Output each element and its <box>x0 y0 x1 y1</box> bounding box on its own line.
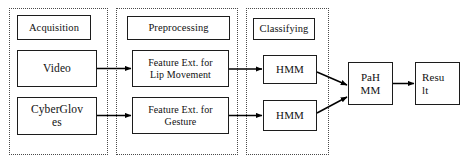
video-label: Video <box>18 62 96 75</box>
cybergloves-label-line2: es <box>52 116 62 128</box>
node-pahmm[interactable]: PaH MM <box>348 62 393 105</box>
result-line1: Resu <box>422 71 444 83</box>
node-hmm-bottom[interactable]: HMM <box>263 100 317 131</box>
node-feature-ext-lip-movement[interactable]: Feature Ext. for Lip Movement <box>132 50 229 87</box>
feature-lip-label: Feature Ext. for Lip Movement <box>133 57 228 79</box>
feature-lip-line1: Feature Ext. for <box>148 57 213 68</box>
pahmm-label: PaH MM <box>349 71 392 96</box>
node-video[interactable]: Video <box>17 50 97 87</box>
node-classifying-label: Classifying <box>253 18 315 40</box>
cybergloves-label-line1: CyberGlov <box>31 103 83 115</box>
diagram-canvas: Acquisition Video CyberGlov es Preproces… <box>0 0 473 165</box>
result-line2: lt <box>422 84 428 96</box>
feature-gesture-line1: Feature Ext. for <box>148 104 213 115</box>
node-acquisition-label: Acquisition <box>17 15 91 40</box>
pahmm-line2: MM <box>361 84 381 96</box>
acquisition-label-text: Acquisition <box>18 22 90 34</box>
feature-gesture-line2: Gesture <box>165 116 197 127</box>
node-hmm-top[interactable]: HMM <box>263 55 317 84</box>
node-result[interactable]: Resu lt <box>415 62 460 105</box>
feature-gesture-label: Feature Ext. for Gesture <box>133 104 228 126</box>
result-label: Resu lt <box>422 71 459 96</box>
hmm-bottom-label: HMM <box>264 109 316 121</box>
cybergloves-label: CyberGlov es <box>18 103 96 129</box>
node-cybergloves[interactable]: CyberGlov es <box>17 97 97 135</box>
node-preprocessing-label: Preprocessing <box>127 16 230 40</box>
hmm-top-label: HMM <box>264 63 316 75</box>
pahmm-line1: PaH <box>361 71 380 83</box>
classifying-label-text: Classifying <box>254 23 314 35</box>
node-feature-ext-gesture[interactable]: Feature Ext. for Gesture <box>132 97 229 134</box>
preprocessing-label-text: Preprocessing <box>128 22 229 34</box>
feature-lip-line2: Lip Movement <box>150 69 211 80</box>
